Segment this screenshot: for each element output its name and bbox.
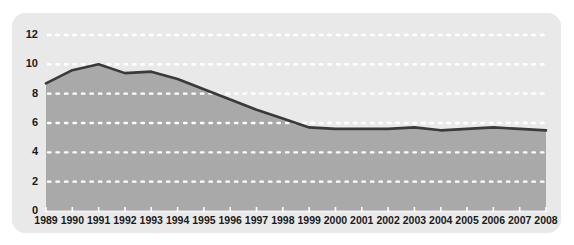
area-chart [0,0,574,245]
